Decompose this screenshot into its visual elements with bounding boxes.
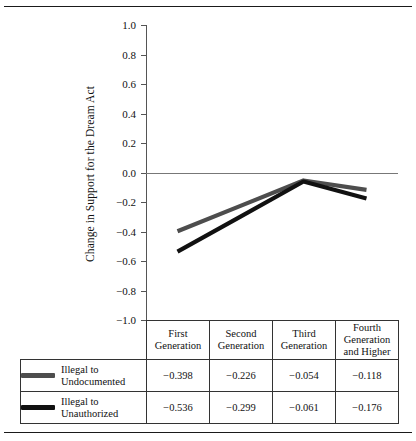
table-header-cell-1: FirstGeneration	[147, 321, 210, 360]
table-value-cell: −0.226	[210, 360, 273, 392]
y-axis-tick-mark	[141, 232, 146, 233]
table-header-line: Generation	[210, 340, 272, 352]
line-chart-figure: Change in Support for the Dream Act 1.00…	[0, 0, 416, 441]
y-axis-tick-label: 0.2	[104, 137, 136, 149]
series-line-2	[178, 181, 367, 251]
y-axis-tick-label: 0.8	[104, 49, 136, 61]
legend-swatch-icon	[21, 405, 55, 410]
table-value-cell: −0.054	[273, 360, 336, 392]
y-axis-tick-mark	[141, 114, 146, 115]
y-axis-tick-label: 0.0	[104, 167, 136, 179]
legend-cell-1: Illegal toUndocumented	[21, 360, 147, 392]
data-table-container: FirstGenerationSecondGenerationThirdGene…	[20, 320, 398, 422]
legend-label: Illegal toUndocumented	[61, 364, 125, 388]
legend-label: Illegal toUnauthorized	[61, 396, 118, 420]
table-header-cell-4: FourthGenerationand Higher	[336, 321, 399, 360]
data-table: FirstGenerationSecondGenerationThirdGene…	[20, 320, 399, 424]
table-header-line: Third	[273, 328, 335, 340]
table-value-cell: −0.398	[147, 360, 210, 392]
y-axis-tick-label: 1.0	[104, 19, 136, 31]
table-header-line: Second	[210, 328, 272, 340]
legend-cell-2: Illegal toUnauthorized	[21, 392, 147, 424]
table-header-line: First	[147, 328, 209, 340]
table-row: Illegal toUnauthorized−0.536−0.299−0.061…	[21, 392, 399, 424]
legend-label-line1: Illegal to	[61, 396, 118, 408]
legend-label-line1: Illegal to	[61, 364, 125, 376]
table-header-line: Generation	[336, 334, 398, 346]
legend-label-line2: Undocumented	[61, 376, 125, 388]
legend-label-line2: Unauthorized	[61, 408, 118, 420]
y-axis-tick-mark	[141, 261, 146, 262]
table-header-line: Fourth	[336, 322, 398, 334]
y-axis-tick-label: −0.6	[104, 255, 136, 267]
series-line-1	[178, 180, 367, 231]
table-header-line: and Higher	[336, 346, 398, 358]
y-axis-tick-mark	[141, 291, 146, 292]
table-header-row: FirstGenerationSecondGenerationThirdGene…	[21, 321, 399, 360]
table-header-line: Generation	[273, 340, 335, 352]
y-axis-tick-mark	[141, 202, 146, 203]
table-value-cell: −0.536	[147, 392, 210, 424]
table-value-cell: −0.299	[210, 392, 273, 424]
table-header-cell-3: ThirdGeneration	[273, 321, 336, 360]
y-axis-tick-mark	[141, 25, 146, 26]
zero-reference-line	[146, 173, 398, 174]
y-axis-tick-mark	[141, 84, 146, 85]
y-axis-tick-mark	[141, 143, 146, 144]
table-value-cell: −0.118	[336, 360, 399, 392]
y-axis-tick-label: 0.4	[104, 108, 136, 120]
table-header-blank-cell	[21, 321, 147, 360]
table-value-cell: −0.176	[336, 392, 399, 424]
table-value-cell: −0.061	[273, 392, 336, 424]
table-header-cell-2: SecondGeneration	[210, 321, 273, 360]
y-axis-tick-mark	[141, 55, 146, 56]
table-row: Illegal toUndocumented−0.398−0.226−0.054…	[21, 360, 399, 392]
y-axis-title: Change in Support for the Dream Act	[84, 24, 96, 324]
y-axis-tick-label: −0.4	[104, 226, 136, 238]
legend-swatch-icon	[21, 373, 55, 378]
table-header-line: Generation	[147, 340, 209, 352]
y-axis-tick-label: −0.8	[104, 285, 136, 297]
y-axis-tick-label: −0.2	[104, 196, 136, 208]
y-axis-tick-label: 0.6	[104, 78, 136, 90]
